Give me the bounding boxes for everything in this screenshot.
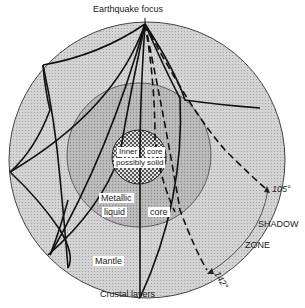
inner-core-label-1: Inner <box>117 147 139 157</box>
inner-core-label-2: core <box>145 147 165 157</box>
crust-label: Crustal layers <box>100 289 155 299</box>
inner-core-label-4: solid <box>145 158 165 168</box>
outer-core-label-2: liquid <box>102 207 127 217</box>
focus-label: Earthquake focus <box>93 4 163 14</box>
inner-core-label-3: possibly <box>114 158 147 168</box>
mantle-label: Mantle <box>93 256 124 266</box>
zone-label: ZONE <box>245 240 270 250</box>
angle-105-label: 105° <box>272 184 291 194</box>
shadow-label: SHADOW <box>258 219 299 229</box>
outer-core-label-1: Metallic <box>99 193 134 203</box>
outer-core-label-3: core <box>148 207 170 217</box>
